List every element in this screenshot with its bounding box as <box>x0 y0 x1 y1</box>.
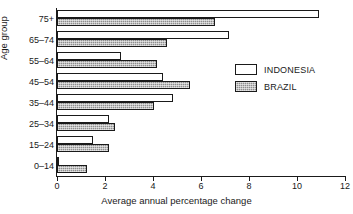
bar-brazil-65–74 <box>57 39 167 47</box>
bar-indonesia-15–24 <box>57 136 93 144</box>
y-axis-label-45–54: 45–54 <box>2 77 54 87</box>
x-tick-label: 8 <box>246 181 251 191</box>
bar-brazil-0–14 <box>57 165 87 173</box>
bar-indonesia-45–54 <box>57 73 163 81</box>
y-axis-label-65–74: 65–74 <box>2 35 54 45</box>
x-tick-label: 12 <box>340 181 350 191</box>
x-tick-label: 10 <box>292 181 302 191</box>
legend-label-brazil: BRAZIL <box>264 82 297 92</box>
bar-indonesia-55–64 <box>57 52 121 60</box>
bar-indonesia-25–34 <box>57 115 109 123</box>
bar-brazil-75+ <box>57 18 215 26</box>
legend-swatch-indonesia <box>235 64 257 75</box>
bar-indonesia-0–14 <box>57 157 59 165</box>
x-tick-label: 6 <box>198 181 203 191</box>
legend-label-indonesia: INDONESIA <box>264 65 315 75</box>
x-tick-label: 0 <box>54 181 59 191</box>
chart-legend: INDONESIA BRAZIL <box>235 64 315 98</box>
legend-swatch-brazil <box>235 81 257 92</box>
x-tick-label: 2 <box>102 181 107 191</box>
y-axis-label-15–24: 15–24 <box>2 140 54 150</box>
y-axis-label-75+: 75+ <box>2 14 54 24</box>
x-tick-label: 4 <box>150 181 155 191</box>
bar-brazil-45–54 <box>57 81 190 89</box>
y-axis-label-25–34: 25–34 <box>2 119 54 129</box>
x-axis-title: Average annual percentage change <box>0 195 353 206</box>
bar-brazil-35–44 <box>57 102 154 110</box>
bar-indonesia-65–74 <box>57 31 229 39</box>
bar-brazil-25–34 <box>57 123 115 131</box>
y-axis-label-55–64: 55–64 <box>2 56 54 66</box>
bar-indonesia-35–44 <box>57 94 173 102</box>
y-axis-category-labels: 75+65–7455–6445–5435–4425–3415–240–14 <box>0 0 54 214</box>
bar-brazil-15–24 <box>57 144 109 152</box>
bar-chart: Age group 75+65–7455–6445–5435–4425–3415… <box>0 0 353 214</box>
legend-item-brazil: BRAZIL <box>235 81 315 92</box>
y-axis-label-35–44: 35–44 <box>2 98 54 108</box>
bar-brazil-55–64 <box>57 60 157 68</box>
legend-item-indonesia: INDONESIA <box>235 64 315 75</box>
y-axis-label-0–14: 0–14 <box>2 161 54 171</box>
bar-indonesia-75+ <box>57 10 319 18</box>
